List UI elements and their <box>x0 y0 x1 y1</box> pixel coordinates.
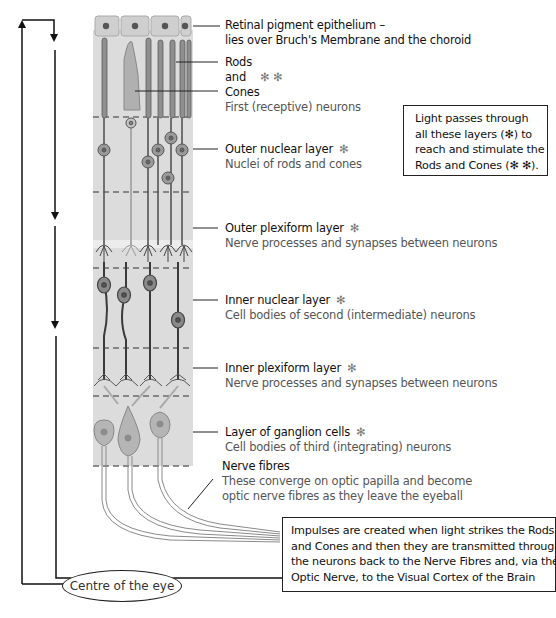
ganglion-title: Layer of ganglion cells <box>225 425 350 439</box>
nerve-fibres-subtitle-1: These converge on optic papilla and beco… <box>222 474 472 489</box>
light-box-line: reach and stimulate the <box>415 142 547 158</box>
light-box-line: all these layers (✻) to <box>415 127 547 143</box>
nerve-fibres-title: Nerve fibres <box>222 459 472 474</box>
ganglion-subtitle: Cell bodies of third (integrating) neuro… <box>225 440 451 455</box>
asterisk-marker: ✻ <box>339 142 348 156</box>
centre-of-eye-text: Centre of the eye <box>70 579 175 593</box>
asterisk-marker: ✻ <box>356 425 365 439</box>
outer-plexiform-title: Outer plexiform layer <box>225 221 344 235</box>
retinal-pigment-epithelium <box>95 16 191 36</box>
nerve-fibres-subtitle-2: optic nerve fibres as they leave the eye… <box>222 489 472 504</box>
label-rods-cones: Rods and✻ ✻ Cones First (receptive) neur… <box>225 55 361 115</box>
inner-nuclear-subtitle: Cell bodies of second (intermediate) neu… <box>225 308 475 323</box>
label-outer-plexiform: Outer plexiform layer✻ Nerve processes a… <box>225 221 497 251</box>
light-box-line: Light passes through <box>415 111 547 127</box>
rpe-subtitle: lies over Bruch's Membrane and the choro… <box>225 33 471 48</box>
and-word: and <box>225 70 246 84</box>
and-line: and✻ ✻ <box>225 70 361 85</box>
label-inner-plexiform: Inner plexiform layer✻ Nerve processes a… <box>225 361 497 391</box>
outer-plexiform-subtitle: Nerve processes and synapses between neu… <box>225 236 497 251</box>
label-outer-nuclear: Outer nuclear layer✻ Nuclei of rods and … <box>225 142 362 172</box>
asterisk-marker: ✻ <box>347 361 356 375</box>
asterisk-marker: ✻ <box>336 293 345 307</box>
impulse-box-line: the neurons back to the Nerve Fibres and… <box>291 554 555 570</box>
outer-nuclear-title: Outer nuclear layer <box>225 142 333 156</box>
light-box-line: Rods and Cones (✻ ✻). <box>415 158 547 174</box>
label-inner-nuclear: Inner nuclear layer✻ Cell bodies of seco… <box>225 293 475 323</box>
rods-title: Rods <box>225 55 361 70</box>
impulse-box-line: Impulses are created when light strikes … <box>291 523 555 539</box>
label-rpe: Retinal pigment epithelium – lies over B… <box>225 18 471 48</box>
centre-of-eye-label: Centre of the eye <box>62 570 182 602</box>
inner-nuclear-title: Inner nuclear layer <box>225 293 330 307</box>
asterisk-marker: ✻ <box>350 221 359 235</box>
impulse-info-box: Impulses are created when light strikes … <box>282 517 556 592</box>
rods-cones-subtitle: First (receptive) neurons <box>225 100 361 115</box>
light-info-box: Light passes through all these layers (✻… <box>403 105 548 176</box>
rpe-title: Retinal pigment epithelium – <box>225 18 471 33</box>
double-asterisk-marker: ✻ ✻ <box>260 70 282 84</box>
inner-plexiform-title: Inner plexiform layer <box>225 361 341 375</box>
impulse-box-line: and Cones and then they are transmitted … <box>291 539 555 555</box>
cones-title: Cones <box>225 85 361 100</box>
inner-plexiform-subtitle: Nerve processes and synapses between neu… <box>225 376 497 391</box>
label-ganglion: Layer of ganglion cells✻ Cell bodies of … <box>225 425 451 455</box>
label-nerve-fibres: Nerve fibres These converge on optic pap… <box>222 459 472 504</box>
impulse-box-line: Optic Nerve, to the Visual Cortex of the… <box>291 570 555 586</box>
outer-nuclear-subtitle: Nuclei of rods and cones <box>225 157 362 172</box>
